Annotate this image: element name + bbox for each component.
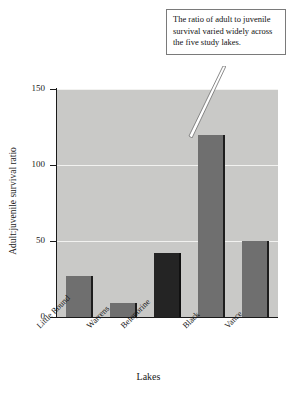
callout-annotation-box: The ratio of adult to juvenile survival … — [166, 9, 286, 55]
y-tick-label-150: 150 — [32, 84, 46, 93]
bar-little-round — [66, 276, 93, 317]
plot-area — [57, 89, 278, 317]
bar-edge — [267, 241, 269, 317]
y-axis-title: Adult:juvenile survival ratio — [8, 126, 18, 276]
y-axis-line — [56, 88, 57, 318]
bar-body — [154, 253, 179, 317]
bar-edge — [223, 135, 225, 317]
gridline-150 — [57, 89, 278, 90]
bar-body — [242, 241, 267, 317]
bar-chart-figure: 150 100 50 0 Adult:juvenile survival rat… — [0, 0, 297, 397]
y-tick-mark-50 — [50, 241, 57, 242]
y-tick-mark-150 — [50, 89, 57, 90]
bar-edge — [91, 276, 93, 317]
y-tick-mark-100 — [50, 165, 57, 166]
bar-beloporine — [154, 253, 181, 317]
bar-body — [66, 276, 91, 317]
bar-body — [198, 135, 223, 317]
y-tick-label-100: 100 — [32, 160, 46, 169]
bar-edge — [179, 253, 181, 317]
bar-vance — [242, 241, 269, 317]
x-axis-title: Lakes — [0, 371, 297, 382]
y-tick-label-50: 50 — [36, 236, 45, 245]
gridline-100 — [57, 165, 278, 166]
bar-black — [198, 135, 225, 317]
